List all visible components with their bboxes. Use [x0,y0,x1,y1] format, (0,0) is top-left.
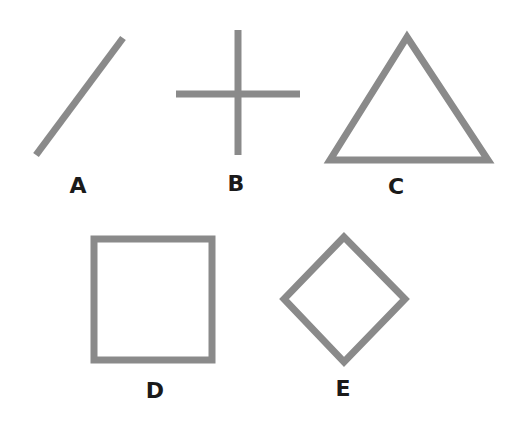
label-b: B [228,171,245,196]
shape-b-cross [176,30,300,155]
shape-c-triangle [330,37,488,160]
label-a: A [69,173,86,198]
shape-a-line [36,38,123,155]
shape-e-diamond [284,237,405,362]
shape-d-square [94,239,212,360]
label-d: D [146,378,164,403]
label-c: C [388,174,404,199]
shapes-diagram: A B C D E [0,0,521,422]
label-e: E [335,376,350,401]
